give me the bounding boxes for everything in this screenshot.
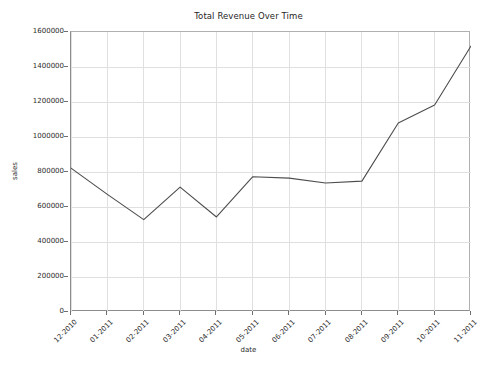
- x-tick-label: 11-2011: [452, 318, 478, 344]
- x-tick-mark: [143, 311, 144, 315]
- x-tick-label: 01-2011: [89, 318, 115, 344]
- x-tick-label: 10-2011: [416, 318, 442, 344]
- x-tick-mark: [215, 311, 216, 315]
- x-tick-label: 03-2011: [161, 318, 187, 344]
- x-tick-mark: [252, 311, 253, 315]
- plot-area: [70, 31, 470, 311]
- x-tick-mark: [325, 311, 326, 315]
- y-axis-tick-marks: [0, 31, 70, 311]
- x-tick-mark: [397, 311, 398, 315]
- y-tick-mark: [64, 136, 68, 137]
- y-tick-mark: [64, 311, 68, 312]
- x-tick-label: 07-2011: [307, 318, 333, 344]
- y-tick-mark: [64, 241, 68, 242]
- x-tick-label: 05-2011: [234, 318, 260, 344]
- x-tick-mark: [179, 311, 180, 315]
- x-tick-mark: [106, 311, 107, 315]
- x-tick-mark: [288, 311, 289, 315]
- x-tick-mark: [434, 311, 435, 315]
- x-tick-mark: [470, 311, 471, 315]
- y-tick-mark: [64, 276, 68, 277]
- y-tick-mark: [64, 66, 68, 67]
- x-tick-label: 02-2011: [125, 318, 151, 344]
- x-tick-mark: [70, 311, 71, 315]
- revenue-line-series: [71, 32, 471, 312]
- x-tick-label: 06-2011: [270, 318, 296, 344]
- x-tick-label: 08-2011: [343, 318, 369, 344]
- x-tick-label: 09-2011: [380, 318, 406, 344]
- x-tick-label: 12-2010: [52, 318, 78, 344]
- y-tick-mark: [64, 31, 68, 32]
- x-tick-mark: [361, 311, 362, 315]
- y-tick-mark: [64, 206, 68, 207]
- y-tick-mark: [64, 171, 68, 172]
- x-axis-label: date: [0, 346, 497, 354]
- data-polyline: [71, 46, 471, 220]
- y-tick-mark: [64, 101, 68, 102]
- chart-figure: Total Revenue Over Time sales 0200000400…: [0, 0, 497, 365]
- chart-title: Total Revenue Over Time: [0, 11, 497, 21]
- x-tick-label: 04-2011: [198, 318, 224, 344]
